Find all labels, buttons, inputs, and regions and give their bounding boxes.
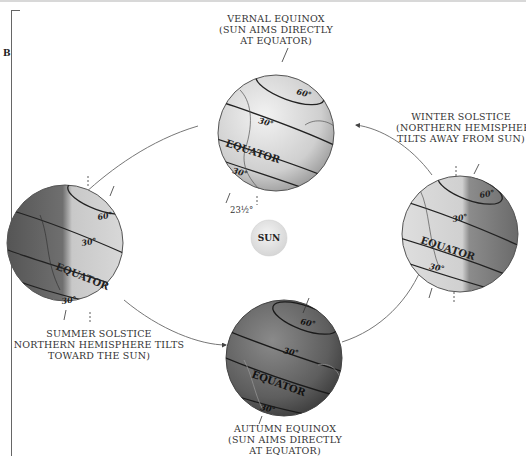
orbit-arrow-autumn-to-winter <box>342 262 424 342</box>
sun: SUN <box>251 220 287 256</box>
label-winter-solstice: WINTER SOLSTICE (NORTHERN HEMISPHERE TIL… <box>396 111 526 144</box>
globe-summer-solstice: 60° 30° EQUATOR 30° <box>7 175 136 322</box>
svg-text:30°: 30° <box>260 402 277 414</box>
label-autumn-equinox: AUTUMN EQUINOX (SUN AIMS DIRECTLY AT EQU… <box>220 423 350 456</box>
svg-text:30°: 30° <box>61 294 77 306</box>
label-summer-solstice: SUMMER SOLSTICE NORTHERN HEMISPHERE TILT… <box>4 328 194 361</box>
label-vernal-equinox: VERNAL EQUINOX (SUN AIMS DIRECTLY AT EQU… <box>212 13 340 46</box>
sun-label: SUN <box>258 233 281 243</box>
orbit-arrow-vernal-to-summer <box>84 126 198 194</box>
svg-text:23½°: 23½° <box>230 205 253 215</box>
earth-orbit-diagram: SUN 60° 30° EQUATOR 30° 23½° <box>0 0 526 459</box>
globe-vernal-equinox: 60° 30° EQUATOR 30° 23½° <box>214 48 340 215</box>
globe-autumn-equinox: 60° 30° EQUATOR 30° <box>226 295 344 424</box>
globe-winter-solstice: 60° 30° EQUATOR 30° <box>400 164 520 302</box>
